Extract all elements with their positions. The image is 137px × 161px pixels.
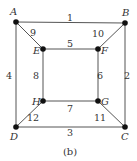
edge-label: 5	[67, 38, 73, 49]
node-E	[40, 46, 46, 52]
node-C	[122, 124, 128, 130]
edge-label: 9	[30, 27, 36, 38]
node-label: E	[32, 45, 41, 56]
edge-label: 10	[92, 28, 104, 39]
node-D	[13, 124, 19, 130]
edge-label: 6	[97, 70, 103, 81]
edge-label: 1	[67, 12, 73, 23]
node-F	[95, 46, 101, 52]
figure-caption: (b)	[63, 146, 77, 157]
edge-label: 3	[67, 127, 73, 138]
graph-diagram: 123456789101112 ABCDEFGH (b)	[0, 0, 137, 161]
node-A	[13, 19, 19, 25]
node-label: F	[100, 45, 109, 56]
node-H	[40, 98, 46, 104]
edge-label: 7	[67, 103, 73, 114]
node-B	[122, 20, 128, 26]
edge-label: 2	[124, 70, 130, 81]
node-label: G	[101, 96, 109, 107]
node-label: C	[121, 131, 129, 142]
node-label: H	[31, 96, 41, 107]
edge-label: 8	[33, 70, 39, 81]
node-label: D	[9, 131, 18, 142]
edge-label: 12	[27, 112, 39, 123]
edge-label: 4	[6, 70, 12, 81]
node-G	[95, 98, 101, 104]
node-label: A	[9, 6, 17, 17]
node-label: B	[121, 7, 129, 18]
edge-label: 11	[94, 112, 106, 123]
